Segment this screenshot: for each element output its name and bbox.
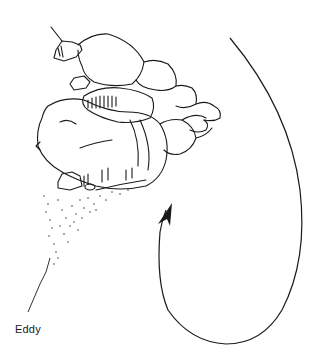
eddy-arrow	[159, 38, 302, 344]
eddy-label: Eddy	[15, 323, 41, 335]
diagram-canvas	[0, 0, 327, 363]
arrowhead-icon	[158, 203, 172, 226]
wake-trail-line	[28, 258, 50, 312]
stipple-wake	[43, 189, 128, 264]
boulder-cluster	[36, 27, 220, 190]
